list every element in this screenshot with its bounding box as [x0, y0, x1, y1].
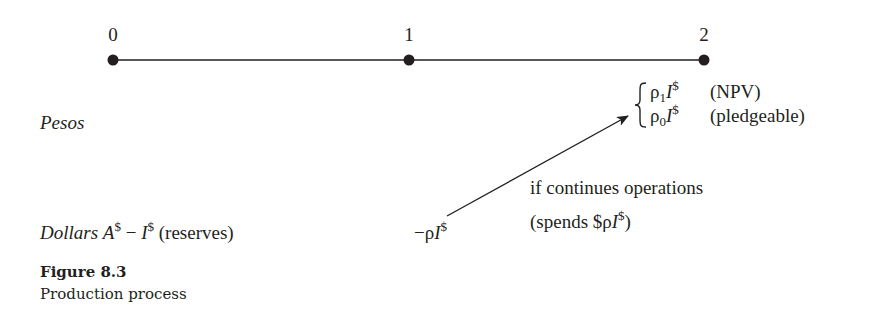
dollars-label: Dollars — [40, 222, 98, 243]
timeline-dot-0 — [108, 55, 119, 66]
npv-note: (NPV) — [710, 80, 761, 103]
arrow-annotation-line2: (spends $ρI$) — [530, 211, 631, 233]
tick-label-0: 0 — [108, 24, 118, 46]
tick-label-2: 2 — [699, 24, 709, 46]
figure-title: Figure 8.3 — [40, 263, 127, 281]
timeline-dot-2 — [699, 55, 710, 66]
reserves-note: (reserves) — [154, 222, 234, 243]
arrow-annotation-line1: if continues operations — [530, 177, 703, 199]
figure-subtitle: Production process — [40, 285, 187, 303]
continuation-arrow — [447, 116, 628, 216]
brace-icon — [634, 80, 648, 130]
pledgeable-note: (pledgeable) — [710, 104, 805, 127]
dollars-t1-outflow: −ρI$ — [414, 222, 447, 244]
dollars-row: Dollars A$ − I$ (reserves) — [40, 222, 234, 244]
timeline-dot-1 — [404, 55, 415, 66]
diagram-graphics — [0, 0, 879, 323]
pesos-outcomes: ρ1I$ (NPV) ρ0I$ (pledgeable) — [634, 80, 874, 130]
pledgeable-outcome: ρ0I$ (pledgeable) — [650, 104, 679, 129]
tick-label-1: 1 — [404, 24, 414, 46]
pesos-label: Pesos — [40, 112, 84, 134]
